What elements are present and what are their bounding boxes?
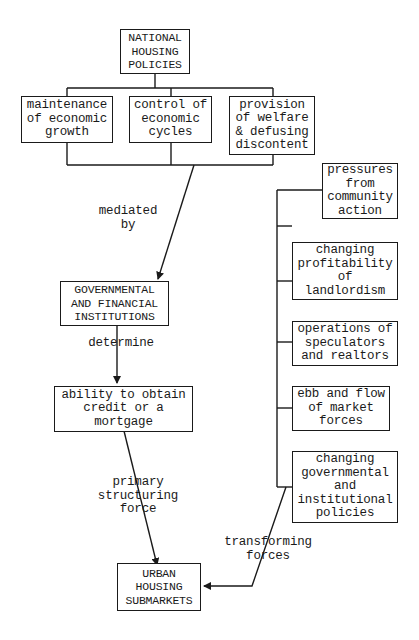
force-market-forces-box: ebb and flow of market forces bbox=[292, 386, 390, 431]
edge-label-transforming-forces: transforming forces bbox=[218, 536, 318, 563]
governmental-financial-institutions-box: GOVERNMENTAL AND FINANCIAL INSTITUTIONS bbox=[60, 281, 169, 326]
edge-label-mediated-by: mediated by bbox=[88, 205, 168, 232]
edge-label-determine: determine bbox=[86, 337, 156, 351]
force-governmental-policies-box: changing governmental and institutional … bbox=[292, 451, 398, 523]
force-landlordism-box: changing profitability of landlordism bbox=[292, 242, 398, 300]
credit-mortgage-box: ability to obtain credit or a mortgage bbox=[54, 386, 193, 432]
urban-housing-submarkets-box: URBAN HOUSING SUBMARKETS bbox=[117, 563, 201, 611]
goal-welfare-box: provision of welfare & defusing disconte… bbox=[229, 96, 315, 155]
edge-label-primary-structuring-force: primary structuring force bbox=[93, 476, 183, 517]
force-speculators-realtors-box: operations of speculators and realtors bbox=[292, 321, 398, 366]
goal-economic-cycles-box: control of economic cycles bbox=[129, 96, 212, 143]
goal-economic-growth-box: maintenance of economic growth bbox=[21, 96, 113, 143]
force-community-action-box: pressures from community action bbox=[322, 163, 398, 219]
national-housing-policies-box: NATIONAL HOUSING POLICIES bbox=[120, 29, 190, 74]
